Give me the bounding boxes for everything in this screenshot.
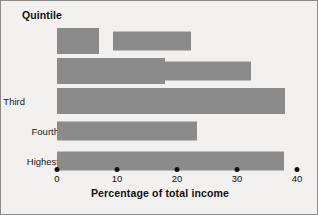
x-tick-label-20: 20 — [172, 173, 183, 184]
bar-row: Lowest — [57, 28, 99, 54]
x-tick-dot-0 — [55, 167, 60, 172]
bar-row: Fourth — [1, 118, 318, 144]
bar-row: Third — [57, 88, 285, 114]
category-label-highest: Highest — [0, 156, 59, 167]
x-tick-dot-40 — [295, 167, 300, 172]
x-tick-label-40: 40 — [292, 173, 303, 184]
x-tick-label-30: 30 — [232, 173, 243, 184]
bar-row: Second — [57, 58, 165, 84]
category-label-fourth: Fourth — [0, 126, 59, 137]
x-axis-title: Percentage of total income — [1, 187, 318, 199]
bar-row: Highest — [1, 148, 318, 174]
x-tick-dot-10 — [115, 167, 120, 172]
bar-fourth[interactable] — [57, 122, 197, 141]
chart-figure: Quintile Lowest Second Third Fourth High… — [0, 0, 318, 215]
category-label-third: Third — [0, 96, 25, 107]
x-tick-dot-20 — [175, 167, 180, 172]
bar-third[interactable] — [113, 92, 220, 111]
x-tick-dot-30 — [235, 167, 240, 172]
bar-lowest[interactable] — [113, 32, 191, 51]
x-tick-label-0: 0 — [54, 173, 59, 184]
bar-highest[interactable] — [57, 152, 284, 171]
x-tick-label-10: 10 — [112, 173, 123, 184]
bar-second[interactable] — [113, 62, 251, 81]
plot-area: Lowest Second Third Fourth Highest 0 10 … — [1, 1, 318, 215]
